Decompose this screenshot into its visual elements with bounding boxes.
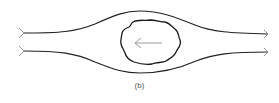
- irregular-body: [121, 20, 181, 64]
- left-arrowhead-upper-icon: [19, 28, 24, 38]
- lower-streamline: [24, 51, 268, 73]
- left-arrowhead-lower-icon: [19, 46, 24, 56]
- upper-streamline: [24, 11, 268, 34]
- figure-caption: (b): [0, 81, 279, 90]
